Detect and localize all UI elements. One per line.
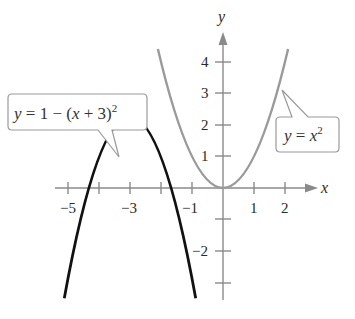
x-axis-arrow-icon	[305, 184, 318, 193]
x-tick-label: −3	[121, 200, 137, 216]
y-tick-label: 4	[201, 54, 209, 70]
callout-right: y = x2	[276, 90, 339, 152]
y-tick-label: 3	[201, 85, 209, 101]
callout-left-label: y = 1 − (x + 3)2	[12, 102, 117, 123]
x-tick-label: −1	[182, 200, 198, 216]
callout-left: y = 1 − (x + 3)2	[8, 94, 147, 157]
y-tick-label: −2	[192, 243, 208, 259]
x-axis-label: x	[320, 179, 328, 196]
y-tick-label: 2	[201, 117, 209, 133]
callout-right-label: y = x2	[282, 124, 323, 145]
y-axis-label: y	[216, 8, 226, 26]
x-tick-label: 2	[281, 200, 289, 216]
x-tick-label: −5	[60, 200, 76, 216]
x-tick-label: 1	[250, 200, 258, 216]
function-graph: −5 −3 −1 1 2 4 3 2 1 −2 x y y = 1 − (x +…	[0, 0, 355, 319]
y-axis-arrow-icon	[219, 32, 228, 45]
y-tick-label: 1	[201, 148, 209, 164]
